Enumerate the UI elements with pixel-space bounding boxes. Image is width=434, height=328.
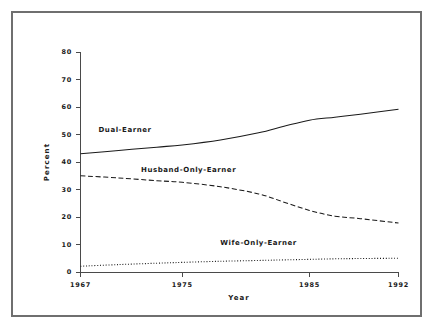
y-tick-label: 80: [62, 48, 72, 56]
x-tick-label: 1985: [299, 281, 320, 289]
y-tick-label: 0: [67, 268, 72, 276]
x-tick-label: 1967: [70, 281, 91, 289]
series-line-husband-only-earner: [81, 176, 399, 223]
y-tick-label: 60: [62, 103, 72, 111]
y-tick-marks: [76, 52, 81, 272]
series-label-dual-earner: Dual-Earner: [99, 126, 152, 134]
y-tick-label: 30: [62, 186, 72, 194]
x-axis: 1967197519851992 Year: [70, 273, 409, 303]
y-tick-label: 10: [62, 241, 72, 249]
y-tick-label: 40: [62, 158, 72, 166]
y-axis-title: Percent: [43, 143, 51, 181]
x-axis-title: Year: [227, 294, 250, 302]
line-chart: 01020304050607080 Percent 19671975198519…: [0, 0, 434, 328]
series-label-wife-only-earner: Wife-Only-Earner: [220, 239, 297, 247]
x-tick-labels: 1967197519851992: [70, 281, 409, 289]
x-tick-label: 1975: [172, 281, 193, 289]
y-tick-labels: 01020304050607080: [62, 48, 72, 276]
x-tick-marks: [81, 273, 399, 278]
y-tick-label: 20: [62, 213, 72, 221]
series-label-husband-only-earner: Husband-Only-Earner: [141, 166, 236, 174]
x-tick-label: 1992: [388, 281, 409, 289]
y-tick-label: 50: [62, 131, 72, 139]
series-annotations: Dual-EarnerHusband-Only-EarnerWife-Only-…: [99, 126, 297, 247]
y-axis: 01020304050607080 Percent: [43, 48, 81, 276]
y-tick-label: 70: [62, 76, 72, 84]
series-line-wife-only-earner: [81, 258, 399, 266]
